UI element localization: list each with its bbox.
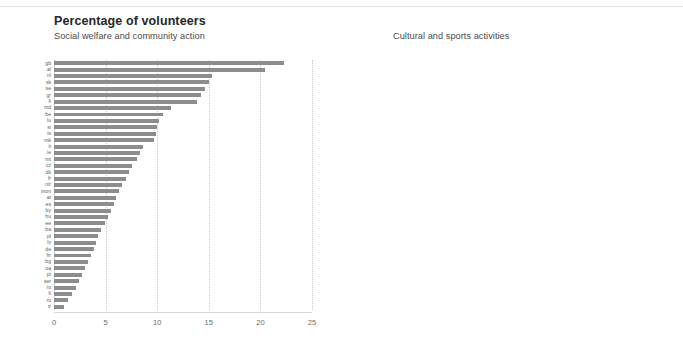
bar-row — [54, 273, 312, 277]
bar-hr — [54, 254, 91, 258]
bar-row — [54, 183, 312, 187]
bar-row — [54, 132, 312, 136]
y-label-ee: ee — [34, 221, 51, 226]
bar-ie — [54, 151, 140, 155]
y-label-lv: lv — [34, 240, 51, 245]
bar-row — [54, 119, 312, 123]
y-label-lu: lu — [34, 118, 51, 123]
bar-row — [54, 234, 312, 238]
y-label-de: de — [34, 247, 51, 252]
bar-row — [54, 170, 312, 174]
bar-row — [54, 266, 312, 270]
bar-row — [54, 87, 312, 91]
bar-ee — [54, 221, 105, 225]
y-label-sk: sk — [34, 80, 51, 85]
plot-area-left: gbalnlsksegrfimdbelusiismkitiemtczdkfrni… — [54, 60, 312, 310]
x-tick-25: 25 — [308, 318, 316, 327]
bar-row — [54, 61, 312, 65]
bar-ba — [54, 228, 101, 232]
y-label-pl: pl — [34, 234, 51, 239]
bar-is — [54, 132, 156, 136]
x-tick-10: 10 — [153, 318, 161, 327]
x-tick-0: 0 — [52, 318, 56, 327]
bar-row — [54, 228, 312, 232]
y-label-ua: ua — [34, 266, 51, 271]
y-label-pt: pt — [34, 272, 51, 277]
bar-row — [54, 177, 312, 181]
y-label-it: it — [34, 144, 51, 149]
bar-hu — [54, 215, 108, 219]
bar-row — [54, 106, 312, 110]
y-label-mk: mk — [34, 138, 51, 143]
bar-ua — [54, 266, 85, 270]
chart-subtitle-left: Social welfare and community action — [54, 31, 205, 41]
y-label-ru: ru — [34, 298, 51, 303]
bar-row — [54, 125, 312, 129]
bar-row — [54, 80, 312, 84]
bar-be — [54, 113, 163, 117]
bar-pt — [54, 273, 82, 277]
y-label-si: si — [34, 125, 51, 130]
chart-panel-cultural-sports: Cultural and sports activities nlsegrskd… — [341, 0, 683, 344]
bar-row — [54, 279, 312, 283]
y-label-nl: nl — [34, 73, 51, 78]
bar-de — [54, 247, 94, 251]
bar-row — [54, 247, 312, 251]
bar-pl — [54, 234, 98, 238]
bar-row — [54, 298, 312, 302]
y-label-ro: ro — [34, 285, 51, 290]
bar-fi — [54, 100, 197, 104]
bar-sk — [54, 80, 209, 84]
x-axis-line-left — [54, 312, 312, 313]
y-label-is: is — [34, 131, 51, 136]
y-label-ba: ba — [34, 227, 51, 232]
y-label-gb: gb — [34, 61, 51, 66]
bar-row — [54, 209, 312, 213]
y-label-lt: lt — [34, 291, 51, 296]
x-axis-left: 0510152025 — [54, 312, 312, 332]
y-label-ie: ie — [34, 150, 51, 155]
y-label-mon: mon — [34, 189, 51, 194]
bar-row — [54, 260, 312, 264]
y-label-tr: tr — [34, 304, 51, 309]
y-label-be: be — [34, 112, 51, 117]
x-tick-5: 5 — [103, 318, 107, 327]
bar-tr — [54, 305, 64, 309]
bar-row — [54, 68, 312, 72]
bar-nl — [54, 74, 212, 78]
y-label-dk: dk — [34, 170, 51, 175]
y-label-bg: bg — [34, 259, 51, 264]
y-label-es: es — [34, 202, 51, 207]
bar-at — [54, 196, 116, 200]
gridline-25 — [312, 60, 314, 310]
bar-lv — [54, 241, 96, 245]
y-label-nir: nir — [34, 182, 51, 187]
bar-dk — [54, 170, 129, 174]
bar-row — [54, 93, 312, 97]
bar-al — [54, 68, 265, 72]
bar-row — [54, 151, 312, 155]
bar-row — [54, 286, 312, 290]
y-label-fi: fi — [34, 99, 51, 104]
bar-lu — [54, 119, 159, 123]
y-label-al: al — [34, 67, 51, 72]
y-label-ser: ser — [34, 279, 51, 284]
y-label-mt: mt — [34, 157, 51, 162]
bar-row — [54, 157, 312, 161]
bar-row — [54, 305, 312, 309]
bar-row — [54, 196, 312, 200]
bar-row — [54, 113, 312, 117]
bar-row — [54, 164, 312, 168]
bar-row — [54, 254, 312, 258]
y-label-fr: fr — [34, 176, 51, 181]
bar-gr — [54, 93, 201, 97]
bar-mk — [54, 138, 154, 142]
chart-page: Percentage of volunteers Social welfare … — [0, 0, 683, 344]
y-label-at: at — [34, 195, 51, 200]
bar-row — [54, 241, 312, 245]
bar-si — [54, 125, 157, 129]
y-label-by: by — [34, 208, 51, 213]
bar-ser — [54, 279, 79, 283]
bar-fr — [54, 177, 126, 181]
y-label-hu: hu — [34, 214, 51, 219]
